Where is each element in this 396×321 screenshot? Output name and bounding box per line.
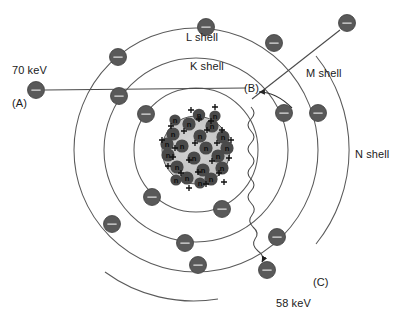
svg-text:n: n <box>220 164 225 173</box>
svg-text:n: n <box>174 176 179 185</box>
marker-b-label: (B) <box>244 82 259 94</box>
marker-c-label: (C) <box>313 276 329 288</box>
svg-text:n: n <box>216 152 221 161</box>
shell-label-l: L shell <box>186 31 218 43</box>
shell-label-m: M shell <box>306 67 342 79</box>
electron <box>266 35 283 52</box>
emitted-photon-wave <box>248 107 263 262</box>
electron <box>269 229 286 246</box>
emitted-energy-label: 58 keV <box>276 297 311 309</box>
svg-text:n: n <box>185 174 190 183</box>
incident-beam-line <box>45 88 246 90</box>
svg-text:n: n <box>209 175 214 184</box>
svg-text:n: n <box>213 112 218 121</box>
svg-text:n: n <box>225 144 230 153</box>
electron <box>104 216 121 233</box>
svg-text:n: n <box>204 144 209 153</box>
svg-text:n: n <box>171 130 176 139</box>
svg-text:n: n <box>165 140 170 149</box>
electron <box>111 88 128 105</box>
electron <box>190 257 207 274</box>
svg-text:n: n <box>180 142 185 151</box>
svg-text:n: n <box>187 120 192 129</box>
svg-text:n: n <box>198 132 203 141</box>
atom-diagram: n n n n n n n n n n n n n n n n n <box>0 0 396 321</box>
ejected-electron <box>339 15 356 32</box>
marker-a-label: (A) <box>12 97 27 109</box>
nucleus: n n n n n n n n n n n n n n n n n <box>159 104 234 191</box>
svg-text:n: n <box>175 163 180 172</box>
electron <box>310 105 327 122</box>
electron <box>214 201 231 218</box>
svg-text:n: n <box>198 179 203 188</box>
incident-electron <box>28 82 45 99</box>
svg-text:n: n <box>201 166 206 175</box>
diagram-canvas: n n n n n n n n n n n n n n n n n <box>0 0 396 321</box>
electron <box>144 189 161 206</box>
shell-label-k: K shell <box>190 60 224 72</box>
svg-text:n: n <box>221 133 226 142</box>
svg-text:n: n <box>192 154 197 163</box>
ejected-electron-track <box>252 30 340 99</box>
shell-orbit-n-lower-left <box>105 272 218 301</box>
electron <box>138 106 155 123</box>
electron <box>276 105 293 122</box>
shell-label-n: N shell <box>355 148 389 160</box>
shell-orbit-n <box>316 56 349 244</box>
svg-text:n: n <box>166 151 171 160</box>
svg-text:n: n <box>173 116 178 125</box>
electron <box>177 235 194 252</box>
electron <box>110 49 127 66</box>
incident-energy-label: 70 keV <box>12 64 47 76</box>
electron <box>259 262 276 279</box>
